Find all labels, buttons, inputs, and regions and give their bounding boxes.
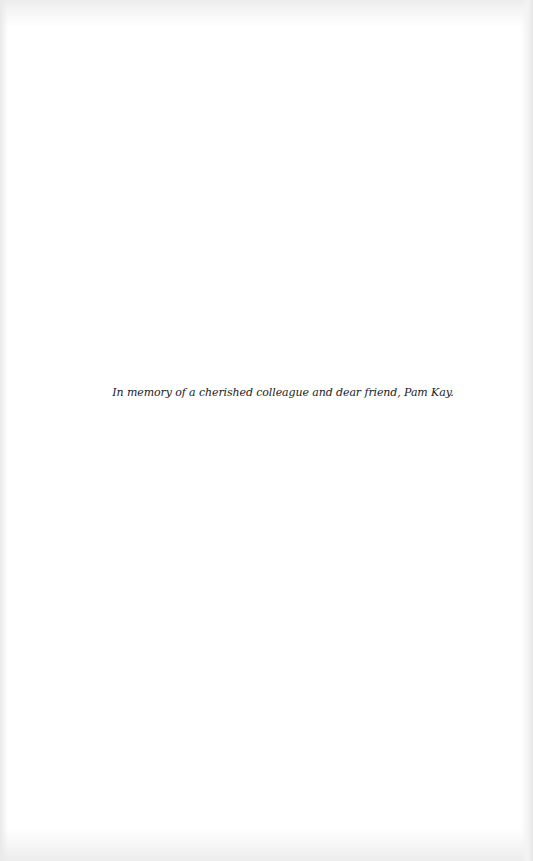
- scan-edge-bottom: [0, 829, 533, 861]
- scan-edge-top: [0, 0, 533, 28]
- scan-edge-right: [521, 0, 533, 861]
- scan-edge-left: [0, 0, 8, 861]
- document-page: In memory of a cherished colleague and d…: [0, 0, 533, 861]
- dedication-text: In memory of a cherished colleague and d…: [0, 386, 533, 399]
